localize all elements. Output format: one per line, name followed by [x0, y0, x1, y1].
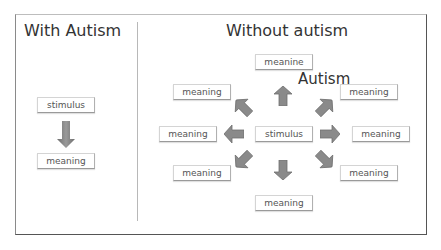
meaning-box-lower-right: meaning	[340, 165, 398, 181]
panel-divider	[137, 22, 138, 221]
left-meaning-box: meaning	[37, 153, 95, 169]
arrow-down-right-icon	[315, 150, 335, 170]
arrow-down-left-icon	[233, 150, 253, 170]
center-stimulus-box: stimulus	[255, 126, 313, 142]
diagram-frame	[15, 14, 427, 235]
meaning-box-left: meaning	[159, 126, 217, 142]
arrow-left-icon	[224, 124, 244, 144]
arrow-down-icon	[273, 160, 293, 180]
meaning-box-top: meanine	[255, 54, 313, 70]
meaning-box-bottom: meaning	[255, 195, 313, 211]
meaning-box-lower-left: meaning	[173, 165, 231, 181]
left-stimulus-box: stimulus	[37, 97, 95, 113]
arrow-up-icon	[273, 86, 293, 106]
arrow-up-left-icon	[233, 97, 253, 117]
meaning-box-right: meaning	[352, 126, 410, 142]
arrow-down-icon	[56, 121, 76, 149]
arrow-right-icon	[320, 124, 340, 144]
autism-overlay-label: Autism	[298, 70, 350, 88]
with-autism-title: With Autism	[24, 21, 121, 40]
arrow-up-right-icon	[315, 97, 335, 117]
meaning-box-upper-left: meaning	[173, 84, 231, 100]
without-autism-title: Without autism	[226, 21, 348, 40]
